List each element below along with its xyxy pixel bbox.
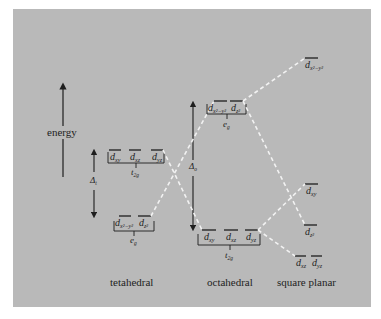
oct-orbital-dxy: dxy <box>204 232 214 243</box>
octahedral-delta-label: Δo <box>189 162 197 173</box>
oct-t2g-label: t2g <box>225 251 233 262</box>
tetrahedral-title: tetahedral <box>110 277 153 288</box>
oct-eg-label: eg <box>223 120 230 131</box>
energy-label: energy <box>47 126 77 139</box>
tet-orbital-dxy: dxy <box>110 152 120 163</box>
tet-orbital-dxz: dxz <box>130 152 140 163</box>
sp-orbital-dx2y2: dx²−y² <box>305 60 323 71</box>
correlation-lines <box>151 58 305 256</box>
tet-eg-label: eg <box>130 236 137 247</box>
sp-orbital-dxy: dxy <box>306 186 316 197</box>
oct-orbital-dxz: dxz <box>226 232 236 243</box>
sp-orbital-dxz: dxz <box>296 258 306 269</box>
oct-orbital-dx2y2: dx²−y² <box>208 103 226 114</box>
square-planar-title: square planar <box>277 277 336 288</box>
diagram-lines <box>0 0 381 319</box>
tetrahedral-delta-label: Δt <box>90 176 97 187</box>
sp-orbital-dz2: dz² <box>305 227 314 238</box>
sp-orbital-dyz: dyz <box>312 258 322 269</box>
tet-orbital-dx2y2: dx²−y² <box>115 218 133 229</box>
oct-orbital-dz2: dz² <box>231 103 240 114</box>
octahedral-title: octahedral <box>207 277 253 288</box>
tet-t2g-label: t2g <box>131 168 139 179</box>
oct-orbital-dyz: dyz <box>246 232 256 243</box>
tet-orbital-dz2: dz² <box>139 218 148 229</box>
tet-orbital-dyz: dyz <box>152 152 162 163</box>
